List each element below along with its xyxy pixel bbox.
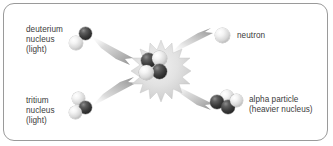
tritium-nucleus — [65, 92, 101, 128]
tritium-sphere-neutron-2 — [69, 106, 82, 119]
core-sphere-proton-2 — [152, 64, 167, 79]
deuterium-sphere-neutron — [69, 36, 83, 50]
tritium-label-line1: tritium — [26, 96, 49, 106]
neutron-sphere — [215, 28, 230, 43]
alpha-label-line2: (heavier nucleus) — [249, 105, 313, 115]
alpha-label-line1: alpha particle — [249, 95, 298, 105]
alpha-sphere-neutron-2 — [230, 94, 243, 107]
deuterium-nucleus — [66, 26, 98, 56]
diagram-frame: deuterium nucleus (light) tritium nucleu… — [3, 3, 328, 141]
tritium-label-line2: nucleus — [26, 106, 55, 116]
deuterium-label-line1: deuterium — [26, 25, 63, 35]
tritium-label-line3: (light) — [26, 116, 47, 126]
deuterium-label-line3: (light) — [26, 45, 47, 55]
fusion-starburst — [130, 40, 192, 102]
neutron-label: neutron — [237, 31, 265, 41]
alpha-particle — [210, 90, 244, 122]
deuterium-label-line2: nucleus — [26, 35, 55, 45]
core-sphere-neutron-2 — [139, 65, 154, 80]
neutron-product — [215, 28, 230, 43]
